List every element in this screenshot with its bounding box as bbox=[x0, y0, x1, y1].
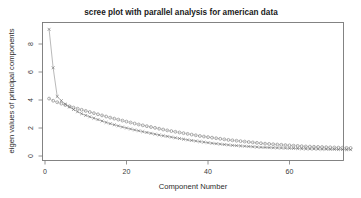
y-axis-ticks: 8 6 4 2 0 bbox=[27, 42, 43, 158]
x-tick-label: 20 bbox=[123, 168, 131, 175]
data-point-marker-o bbox=[60, 102, 63, 105]
x-axis-title: Component Number bbox=[159, 182, 228, 191]
data-point-marker-x bbox=[101, 120, 104, 123]
data-series-layer bbox=[48, 28, 352, 151]
y-axis-title: eigen values of principal components bbox=[7, 28, 16, 153]
chart-title: scree plot with parallel analysis for am… bbox=[84, 8, 278, 17]
x-tick-label: 60 bbox=[286, 168, 294, 175]
data-point-marker-x bbox=[92, 117, 95, 120]
data-point-marker-x bbox=[76, 110, 79, 113]
y-tick-label: 2 bbox=[27, 126, 34, 130]
series-line bbox=[49, 29, 351, 149]
y-tick-label: 8 bbox=[27, 42, 34, 46]
data-point-marker-o bbox=[52, 99, 55, 102]
data-point-marker-x bbox=[97, 118, 100, 121]
x-axis-ticks: 0 20 40 60 bbox=[43, 161, 293, 176]
y-tick-label: 0 bbox=[27, 154, 34, 158]
y-tick-label: 6 bbox=[27, 70, 34, 74]
data-point-marker-x bbox=[80, 112, 83, 115]
x-tick-label: 0 bbox=[43, 168, 47, 175]
data-point-marker-x bbox=[60, 99, 63, 102]
plot-frame bbox=[43, 23, 344, 161]
y-tick-label: 4 bbox=[27, 98, 34, 102]
x-tick-label: 40 bbox=[204, 168, 212, 175]
series-line bbox=[49, 99, 351, 148]
scree-plot-screenshot: scree plot with parallel analysis for am… bbox=[0, 0, 361, 198]
scree-plot-figure: scree plot with parallel analysis for am… bbox=[0, 0, 361, 198]
data-point-marker-x bbox=[88, 115, 91, 118]
data-point-marker-x bbox=[84, 114, 87, 117]
series-actual bbox=[48, 28, 352, 151]
